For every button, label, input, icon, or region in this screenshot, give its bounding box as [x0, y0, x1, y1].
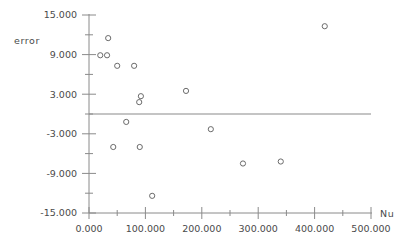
data-point-marker: [322, 24, 327, 29]
y-axis-ticks: 15.0009.0003.000-3.000-9.000-15.000: [40, 9, 96, 218]
y-tick-label: 15.000: [44, 9, 77, 20]
data-point-marker: [137, 144, 142, 149]
data-point-marker: [278, 159, 283, 164]
data-point-marker: [124, 119, 129, 124]
data-point-marker: [137, 100, 142, 105]
x-tick-label: 300.000: [239, 223, 278, 234]
data-point-marker: [183, 88, 188, 93]
y-tick-label: -3.000: [46, 128, 77, 139]
chart-canvas: 15.0009.0003.000-3.000-9.000-15.0000.000…: [0, 0, 415, 250]
x-tick-label: 500.000: [351, 223, 390, 234]
x-tick-label: 200.000: [182, 223, 221, 234]
data-point-marker: [138, 94, 143, 99]
y-tick-label: -15.000: [40, 207, 77, 218]
x-axis-title: Nu: [380, 208, 394, 219]
axis-titles: errorNu: [14, 35, 394, 219]
data-point-marker: [106, 36, 111, 41]
data-point-marker: [240, 161, 245, 166]
data-point-marker: [132, 63, 137, 68]
data-point-marker: [115, 63, 120, 68]
x-tick-label: 0.000: [75, 223, 102, 234]
data-point-marker: [111, 144, 116, 149]
scatter-plot-figure: 15.0009.0003.000-3.000-9.000-15.0000.000…: [0, 0, 415, 250]
y-tick-label: -9.000: [46, 168, 77, 179]
x-tick-label: 400.000: [295, 223, 334, 234]
data-point-marker: [208, 127, 213, 132]
data-points-group: [98, 24, 328, 199]
x-tick-label: 100.000: [126, 223, 165, 234]
y-tick-label: 3.000: [50, 89, 77, 100]
data-point-marker: [150, 193, 155, 198]
y-axis-title: error: [14, 35, 40, 46]
data-point-marker: [104, 53, 109, 58]
data-point-marker: [98, 53, 103, 58]
y-tick-label: 9.000: [50, 49, 77, 60]
x-axis-ticks: 0.000100.000200.000300.000400.000500.000: [75, 207, 390, 234]
